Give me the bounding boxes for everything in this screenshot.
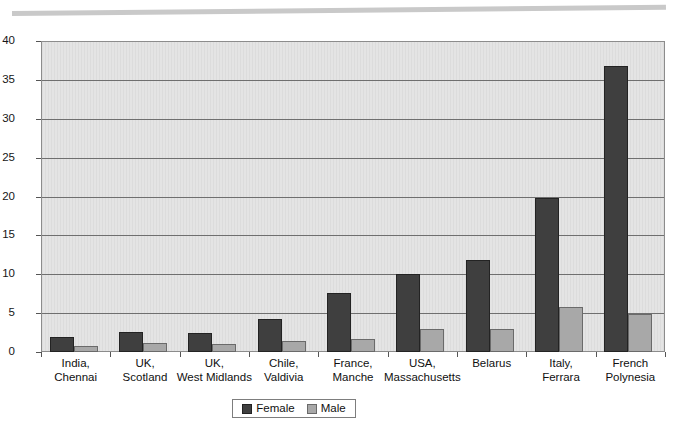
y-axis-tick-label: 25 xyxy=(0,152,15,164)
y-axis-tick-label: 5 xyxy=(0,307,15,319)
gridline xyxy=(42,119,664,120)
bar-male xyxy=(490,329,514,352)
category-label-line: French xyxy=(590,357,671,371)
bar-male xyxy=(420,329,444,352)
y-axis-tick-label: 40 xyxy=(0,35,15,47)
y-axis-tick-label: 30 xyxy=(0,113,15,125)
y-axis-tick-label: 20 xyxy=(0,191,15,203)
y-axis-tick-mark xyxy=(36,197,41,198)
y-axis-tick-mark xyxy=(36,235,41,236)
x-axis-tick-mark xyxy=(41,352,42,357)
legend-label: Female xyxy=(256,403,294,415)
bar-male xyxy=(212,344,236,352)
y-axis-tick-label: 15 xyxy=(0,229,15,241)
y-axis-tick-mark xyxy=(36,119,41,120)
bar-male xyxy=(282,341,306,352)
bar-male xyxy=(559,307,583,352)
bar-male xyxy=(351,339,375,352)
plot-area xyxy=(41,41,665,352)
gridline xyxy=(42,80,664,81)
bar-female xyxy=(535,198,559,352)
y-axis-tick-label: 0 xyxy=(0,346,15,358)
bar-female xyxy=(50,337,74,352)
bar-male xyxy=(628,314,652,352)
bar-female xyxy=(466,260,490,352)
bar-female xyxy=(327,293,351,352)
gridline xyxy=(42,197,664,198)
bar-female xyxy=(119,332,143,352)
bar-male xyxy=(74,346,98,352)
legend-item-male[interactable]: Male xyxy=(307,403,346,415)
category-label-line: Polynesia xyxy=(590,371,671,385)
gridline xyxy=(42,235,664,236)
gridline xyxy=(42,274,664,275)
legend-item-female[interactable]: Female xyxy=(242,403,294,415)
bar-female xyxy=(604,66,628,352)
chart-legend: FemaleMale xyxy=(232,399,356,418)
bar-female xyxy=(258,319,282,352)
y-axis-tick-label: 35 xyxy=(0,74,15,86)
bar-female xyxy=(396,274,420,352)
gridline xyxy=(42,158,664,159)
y-axis-tick-label: 10 xyxy=(0,268,15,280)
y-axis-tick-mark xyxy=(36,41,41,42)
y-axis-tick-mark xyxy=(36,313,41,314)
bar-female xyxy=(188,333,212,352)
bar-chart-figure: 0510152025303540 India,ChennaiUK,Scotlan… xyxy=(0,0,678,426)
y-axis-tick-mark xyxy=(36,80,41,81)
legend-label: Male xyxy=(321,403,346,415)
y-axis-tick-mark xyxy=(36,158,41,159)
x-axis-category-label: FrenchPolynesia xyxy=(590,357,671,384)
category-label-line: Massachusetts xyxy=(382,371,463,385)
legend-swatch-male-icon xyxy=(307,404,317,414)
y-axis-tick-mark xyxy=(36,274,41,275)
bar-male xyxy=(143,343,167,352)
legend-swatch-female-icon xyxy=(242,404,252,414)
